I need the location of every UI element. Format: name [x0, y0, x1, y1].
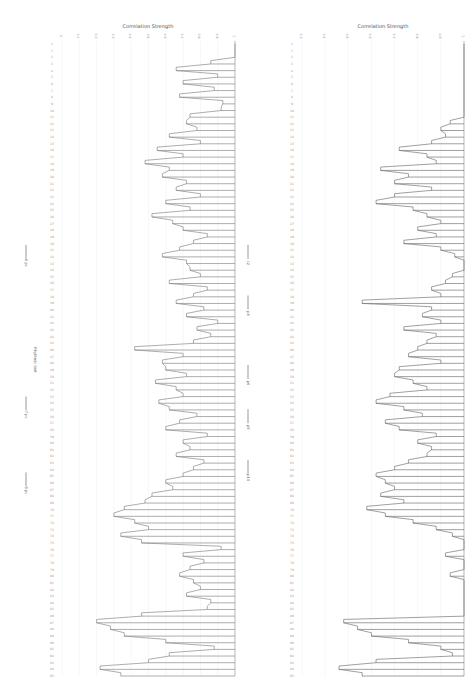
data-point	[357, 629, 358, 630]
data-point	[464, 50, 465, 51]
row-label: 62	[290, 454, 294, 458]
data-point	[464, 57, 465, 58]
row-label: 7	[51, 89, 53, 93]
row-label: 67	[50, 488, 54, 492]
data-point	[110, 629, 111, 630]
row-label: 12	[290, 122, 294, 126]
row-label: 61	[290, 448, 294, 452]
data-point	[436, 529, 437, 530]
data-point	[152, 217, 153, 218]
data-point	[464, 549, 465, 550]
data-point	[155, 383, 156, 384]
data-point	[190, 270, 191, 271]
row-label: 52	[290, 388, 294, 392]
annotation-label: p8	[246, 425, 250, 430]
row-label: 89	[50, 634, 54, 638]
data-point	[464, 97, 465, 98]
data-point	[204, 463, 205, 464]
row-label: 51	[290, 381, 294, 385]
data-point	[166, 430, 167, 431]
row-label: 94	[290, 667, 294, 671]
data-point	[464, 609, 465, 610]
row-label: 69	[50, 501, 54, 505]
correlation-chart: Correlation Strength00.10.20.30.40.50.60…	[0, 0, 467, 684]
row-label: 41	[50, 315, 54, 319]
row-label: 87	[50, 621, 54, 625]
data-point	[394, 197, 395, 198]
data-point	[214, 90, 215, 91]
data-point	[96, 623, 97, 624]
data-point	[200, 197, 201, 198]
x-tick-label: 0.4	[322, 33, 326, 38]
data-point	[408, 356, 409, 357]
row-label: 66	[50, 481, 54, 485]
row-label: 84	[50, 601, 54, 605]
row-label: 82	[50, 588, 54, 592]
data-point	[141, 543, 142, 544]
data-point	[441, 363, 442, 364]
row-label: 53	[290, 395, 294, 399]
data-point	[394, 183, 395, 184]
row-label: 72	[290, 521, 294, 525]
data-point	[427, 157, 428, 158]
row-label: 37	[290, 288, 294, 292]
row-label: 44	[290, 335, 294, 339]
row-label: 65	[50, 474, 54, 478]
row-label: 95	[290, 674, 294, 678]
x-tick-label: 0.6	[368, 33, 372, 38]
data-point	[339, 669, 340, 670]
data-point	[362, 303, 363, 304]
data-point	[436, 336, 437, 337]
data-point	[183, 230, 184, 231]
row-label: 26	[290, 215, 294, 219]
row-label: 88	[290, 627, 294, 631]
row-label: 22	[50, 188, 54, 192]
data-point	[179, 97, 180, 98]
row-label: 8	[51, 95, 53, 99]
row-label: 56	[50, 415, 54, 419]
data-point	[172, 489, 173, 490]
row-label: 31	[290, 248, 294, 252]
annotation-label: p10	[246, 474, 250, 482]
row-label: 14	[50, 135, 54, 139]
row-label: 17	[50, 155, 54, 159]
row-label: 86	[290, 614, 294, 618]
row-label: 5	[291, 75, 293, 79]
row-label: 54	[50, 401, 54, 405]
row-label: 9	[291, 102, 293, 106]
data-point	[197, 330, 198, 331]
data-point	[427, 456, 428, 457]
row-label: 6	[291, 82, 293, 86]
row-label: 3	[51, 62, 53, 66]
data-point	[441, 250, 442, 251]
row-label: 25	[50, 208, 54, 212]
row-label: 63	[50, 461, 54, 465]
row-label: 32	[290, 255, 294, 259]
row-label: 77	[290, 554, 294, 558]
row-label: 9	[51, 102, 53, 106]
row-label: 76	[290, 548, 294, 552]
data-point	[394, 376, 395, 377]
data-point	[183, 443, 184, 444]
row-label: 33	[50, 262, 54, 266]
row-label: 15	[50, 142, 54, 146]
data-point	[200, 589, 201, 590]
data-point	[221, 110, 222, 111]
data-point	[159, 403, 160, 404]
annotation-label: p4	[246, 311, 250, 316]
row-label: 71	[290, 514, 294, 518]
data-point	[413, 210, 414, 211]
row-label: 26	[50, 215, 54, 219]
data-point	[367, 509, 368, 510]
row-label: 78	[290, 561, 294, 565]
data-point	[176, 303, 177, 304]
row-label: 62	[50, 454, 54, 458]
row-label: 35	[290, 275, 294, 279]
data-point	[385, 423, 386, 424]
data-point	[464, 70, 465, 71]
data-point	[169, 170, 170, 171]
row-label: 43	[50, 328, 54, 332]
data-point	[207, 609, 208, 610]
data-point	[211, 603, 212, 604]
data-point	[436, 237, 437, 238]
